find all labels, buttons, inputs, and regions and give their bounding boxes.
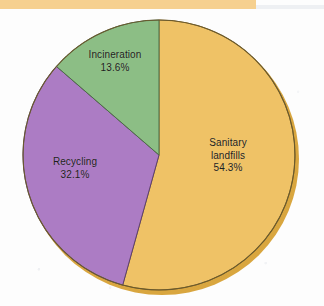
slice-label-sanitary-landfills-name-line2: landfills [180, 150, 276, 163]
pie-chart-page: Incineration 13.6% Recycling 32.1% Sanit… [0, 0, 324, 306]
slice-label-sanitary-landfills-percent: 54.3% [180, 162, 276, 175]
slice-label-recycling-percent: 32.1% [22, 169, 128, 182]
slice-label-incineration-percent: 13.6% [62, 62, 168, 75]
top-decorative-band [0, 0, 256, 9]
slice-label-incineration-name: Incineration [62, 49, 168, 62]
slice-label-recycling: Recycling 32.1% [22, 156, 128, 181]
slice-label-incineration: Incineration 13.6% [62, 49, 168, 74]
slice-label-recycling-name: Recycling [22, 156, 128, 169]
pie-chart: Incineration 13.6% Recycling 32.1% Sanit… [0, 9, 324, 306]
slice-label-sanitary-landfills: Sanitary landfills 54.3% [180, 137, 276, 175]
slice-label-sanitary-landfills-name-line1: Sanitary [180, 137, 276, 150]
